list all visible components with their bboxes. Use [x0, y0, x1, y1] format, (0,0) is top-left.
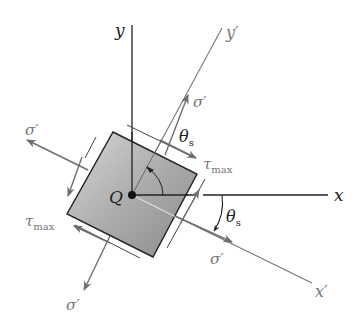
sigma-right-arrow	[175, 216, 232, 242]
theta-top-symbol: θ	[179, 127, 189, 146]
y-axis-label: y	[114, 20, 125, 40]
theta-right-subscript: s	[236, 217, 241, 228]
sigma-top-arrow	[165, 95, 188, 155]
theta-top-label: θs	[179, 127, 194, 148]
x-axis-label: x	[334, 185, 344, 205]
stress-element-diagram: y x y′ x′ Q σ′ σ′ σ′ σ′ τmax τmax	[0, 0, 357, 322]
tau-left-label: τmax	[25, 212, 55, 232]
theta-right-symbol: θ	[226, 207, 236, 226]
sigma-left-label: σ′	[25, 121, 39, 139]
theta-right-label: θs	[226, 207, 241, 228]
shear-left-guide	[85, 137, 96, 158]
y-prime-axis-label: y′	[225, 23, 239, 42]
tau-left-subscript: max	[33, 221, 54, 232]
tau-right-subscript: max	[211, 164, 232, 175]
tau-right-label: τmax	[203, 155, 233, 175]
sigma-top-label: σ′	[193, 93, 207, 111]
sigma-right-label: σ′	[210, 250, 224, 268]
sigma-bottom-label: σ′	[66, 296, 80, 314]
sigma-bottom-arrow	[84, 236, 110, 290]
outer-angle-arc	[214, 195, 223, 231]
theta-top-subscript: s	[189, 137, 194, 148]
x-prime-axis-label: x′	[315, 282, 328, 301]
point-q-label: Q	[109, 187, 123, 207]
point-q	[128, 191, 136, 199]
